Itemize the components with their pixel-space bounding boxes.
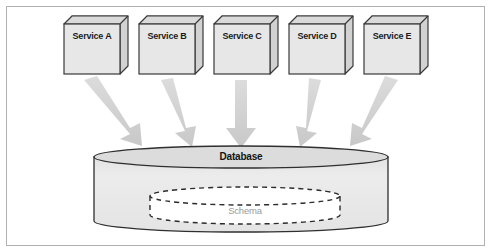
service-box-c-label: Service C <box>214 32 270 41</box>
database-label: Database <box>94 152 388 162</box>
service-box-a-label: Service A <box>64 32 120 41</box>
service-box-c[interactable] <box>214 16 278 74</box>
arrow-service-e-to-database <box>350 76 398 146</box>
arrow-service-d-to-database <box>296 78 321 147</box>
figure-root: Service A Service B Service C Service D … <box>0 0 491 252</box>
arrow-service-b-to-database <box>161 78 196 147</box>
service-box-e-label: Service E <box>364 32 420 41</box>
service-box-b-label: Service B <box>139 32 195 41</box>
schema-label: Schema <box>150 206 340 216</box>
service-box-a[interactable] <box>64 16 128 74</box>
service-box-b[interactable] <box>139 16 203 74</box>
arrow-service-c-to-database <box>226 80 256 148</box>
service-box-group <box>64 16 428 74</box>
arrow-service-a-to-database <box>84 76 142 146</box>
service-box-d[interactable] <box>289 16 353 74</box>
service-box-e[interactable] <box>364 16 428 74</box>
arrow-group <box>84 76 398 148</box>
service-box-d-label: Service D <box>289 32 345 41</box>
